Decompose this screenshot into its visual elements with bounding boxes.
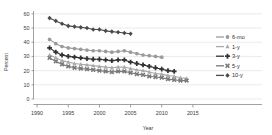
data-point-marker (160, 55, 164, 59)
data-point-marker (79, 47, 83, 51)
data-point-marker (48, 38, 52, 42)
data-point-marker (60, 45, 64, 49)
legend-label: 6-mo (232, 34, 245, 40)
legend-label: 5-y (232, 63, 240, 69)
data-point-marker (104, 50, 108, 54)
x-tick-label: 1990 (31, 110, 43, 116)
y-axis-title: Percent (3, 53, 9, 71)
data-point-marker (141, 53, 145, 57)
data-point-marker (147, 54, 151, 58)
data-point-marker (226, 35, 230, 39)
data-point-marker (116, 50, 120, 54)
data-point-marker (98, 49, 102, 53)
y-tick-label: 30 (24, 53, 30, 59)
x-axis-title: Year (143, 125, 154, 131)
x-tick-label: 2015 (187, 110, 199, 116)
legend-label: 1-y (232, 44, 240, 50)
data-point-marker (54, 42, 58, 46)
data-point-marker (85, 48, 89, 52)
data-point-marker (122, 49, 126, 53)
chart-figure: 0102030405060 199019952000200520102015 P… (0, 0, 272, 135)
y-tick-label: 40 (24, 39, 30, 45)
data-point-marker (73, 47, 77, 51)
x-tick-label: 2000 (93, 110, 105, 116)
x-tick-label: 2005 (125, 110, 137, 116)
y-tick-label: 60 (24, 11, 30, 17)
data-point-marker (66, 46, 70, 50)
legend-label: 3-y (232, 53, 240, 59)
line-chart-svg: 0102030405060 199019952000200520102015 P… (0, 0, 272, 135)
y-tick-label: 10 (24, 82, 30, 88)
x-tick-label: 1995 (62, 110, 74, 116)
data-point-marker (91, 49, 95, 53)
data-point-marker (135, 52, 139, 56)
y-tick-label: 50 (24, 25, 30, 31)
y-tick-label: 0 (27, 96, 30, 102)
legend-label: 10-y (232, 72, 243, 78)
data-point-marker (154, 55, 158, 59)
data-point-marker (110, 50, 114, 54)
data-point-marker (129, 50, 133, 54)
y-tick-label: 20 (24, 68, 30, 74)
x-tick-label: 2010 (156, 110, 168, 116)
